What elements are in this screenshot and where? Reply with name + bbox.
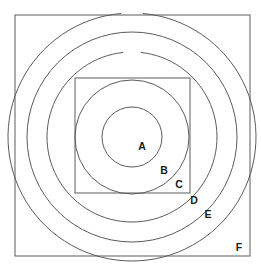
label-d: D	[190, 194, 198, 206]
inner-square-c	[75, 78, 190, 193]
label-e: E	[204, 208, 211, 220]
outer-square	[15, 15, 250, 256]
circle-b	[75, 80, 189, 194]
circle-f	[8, 13, 256, 261]
circle-a	[102, 107, 162, 167]
label-c: C	[175, 178, 183, 190]
label-b: B	[160, 164, 168, 176]
label-f: F	[236, 241, 243, 253]
diagram-canvas: A B C D E F	[0, 0, 261, 270]
label-a: A	[138, 140, 146, 152]
concentric-shapes-figure: A B C D E F	[0, 0, 261, 270]
